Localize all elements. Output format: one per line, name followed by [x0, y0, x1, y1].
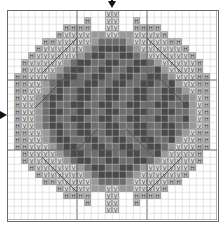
stitch-cell[interactable]: V	[189, 136, 196, 143]
stitch-cell[interactable]	[84, 136, 91, 143]
stitch-cell[interactable]: V	[42, 52, 49, 59]
stitch-cell[interactable]	[168, 129, 175, 136]
stitch-cell[interactable]: V	[154, 164, 161, 171]
stitch-cell[interactable]: H	[77, 24, 84, 31]
stitch-cell[interactable]: V	[189, 150, 196, 157]
stitch-cell[interactable]	[98, 108, 105, 115]
stitch-cell[interactable]	[91, 59, 98, 66]
stitch-cell[interactable]: H	[21, 157, 28, 164]
stitch-cell[interactable]	[112, 164, 119, 171]
stitch-cell[interactable]	[154, 59, 161, 66]
stitch-cell[interactable]	[56, 101, 63, 108]
stitch-cell[interactable]: V	[70, 185, 77, 192]
stitch-cell[interactable]	[168, 87, 175, 94]
stitch-cell[interactable]: V	[84, 178, 91, 185]
stitch-cell[interactable]: H	[84, 199, 91, 206]
stitch-cell[interactable]	[70, 122, 77, 129]
stitch-cell[interactable]: V	[42, 150, 49, 157]
stitch-cell[interactable]	[154, 108, 161, 115]
stitch-cell[interactable]	[147, 80, 154, 87]
stitch-cell[interactable]	[56, 150, 63, 157]
stitch-cell[interactable]	[63, 129, 70, 136]
stitch-cell[interactable]: V	[35, 87, 42, 94]
stitch-cell[interactable]	[147, 115, 154, 122]
stitch-cell[interactable]: H	[133, 24, 140, 31]
stitch-cell[interactable]	[133, 164, 140, 171]
stitch-cell[interactable]	[147, 108, 154, 115]
stitch-cell[interactable]	[168, 143, 175, 150]
stitch-cell[interactable]: V	[182, 136, 189, 143]
stitch-cell[interactable]	[105, 87, 112, 94]
stitch-cell[interactable]: V	[49, 45, 56, 52]
stitch-cell[interactable]: H	[28, 164, 35, 171]
stitch-cell[interactable]	[98, 80, 105, 87]
stitch-cell[interactable]	[84, 101, 91, 108]
stitch-cell[interactable]	[126, 73, 133, 80]
stitch-cell[interactable]	[112, 80, 119, 87]
stitch-cell[interactable]: V	[63, 52, 70, 59]
stitch-cell[interactable]	[112, 94, 119, 101]
stitch-cell[interactable]: V	[35, 66, 42, 73]
stitch-cell[interactable]: V	[70, 38, 77, 45]
stitch-cell[interactable]	[133, 87, 140, 94]
stitch-cell[interactable]	[140, 87, 147, 94]
stitch-cell[interactable]: V	[35, 157, 42, 164]
stitch-cell[interactable]	[140, 94, 147, 101]
stitch-cell[interactable]: H	[147, 192, 154, 199]
stitch-cell[interactable]	[105, 129, 112, 136]
stitch-cell[interactable]: V	[84, 38, 91, 45]
stitch-cell[interactable]	[147, 157, 154, 164]
stitch-cell[interactable]	[119, 136, 126, 143]
stitch-cell[interactable]	[140, 129, 147, 136]
stitch-cell[interactable]: V	[154, 45, 161, 52]
stitch-cell[interactable]: V	[56, 164, 63, 171]
stitch-cell[interactable]	[63, 101, 70, 108]
stitch-cell[interactable]	[91, 150, 98, 157]
stitch-cell[interactable]: H	[196, 150, 203, 157]
stitch-cell[interactable]: V	[112, 17, 119, 24]
stitch-cell[interactable]: H	[35, 171, 42, 178]
stitch-cell[interactable]	[70, 150, 77, 157]
stitch-cell[interactable]	[161, 150, 168, 157]
stitch-cell[interactable]	[119, 122, 126, 129]
stitch-cell[interactable]	[91, 185, 98, 192]
stitch-cell[interactable]	[168, 101, 175, 108]
stitch-cell[interactable]	[91, 87, 98, 94]
stitch-cell[interactable]	[42, 115, 49, 122]
stitch-cell[interactable]	[112, 108, 119, 115]
stitch-cell[interactable]	[98, 150, 105, 157]
stitch-cell[interactable]: V	[77, 185, 84, 192]
stitch-cell[interactable]	[49, 143, 56, 150]
stitch-cell[interactable]	[84, 157, 91, 164]
stitch-cell[interactable]: V	[42, 59, 49, 66]
stitch-cell[interactable]	[105, 143, 112, 150]
stitch-cell[interactable]	[49, 73, 56, 80]
stitch-cell[interactable]	[84, 45, 91, 52]
stitch-cell[interactable]: H	[14, 87, 21, 94]
stitch-cell[interactable]	[70, 115, 77, 122]
stitch-cell[interactable]: V	[154, 185, 161, 192]
stitch-cell[interactable]	[133, 136, 140, 143]
stitch-cell[interactable]	[77, 129, 84, 136]
stitch-cell[interactable]: V	[56, 59, 63, 66]
stitch-cell[interactable]	[161, 94, 168, 101]
stitch-cell[interactable]	[154, 87, 161, 94]
stitch-cell[interactable]	[126, 171, 133, 178]
stitch-cell[interactable]	[140, 59, 147, 66]
stitch-cell[interactable]	[133, 108, 140, 115]
stitch-cell[interactable]: H	[84, 24, 91, 31]
stitch-cell[interactable]	[91, 73, 98, 80]
stitch-cell[interactable]	[70, 87, 77, 94]
stitch-cell[interactable]: H	[154, 24, 161, 31]
stitch-cell[interactable]	[154, 73, 161, 80]
stitch-cell[interactable]	[147, 59, 154, 66]
stitch-cell[interactable]	[112, 143, 119, 150]
stitch-cell[interactable]: V	[42, 66, 49, 73]
stitch-cell[interactable]	[98, 136, 105, 143]
stitch-cell[interactable]: V	[21, 94, 28, 101]
stitch-cell[interactable]	[126, 129, 133, 136]
stitch-cell[interactable]: V	[147, 45, 154, 52]
stitch-cell[interactable]	[147, 150, 154, 157]
stitch-cell[interactable]: V	[56, 52, 63, 59]
stitch-cell[interactable]	[119, 129, 126, 136]
